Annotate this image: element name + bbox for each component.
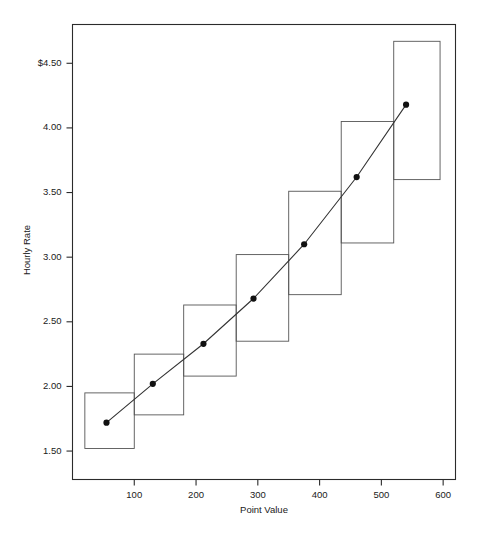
x-axis-tick-label: 400 — [312, 489, 328, 500]
x-axis-tick-label: 100 — [126, 489, 142, 500]
data-point-marker — [250, 295, 256, 301]
y-axis-title: Hourly Rate — [21, 225, 32, 275]
y-axis-tick-label: 3.50 — [43, 186, 62, 197]
data-point-marker — [150, 381, 156, 387]
step-box — [134, 354, 183, 415]
x-axis-group: 100200300400500600 — [126, 480, 451, 500]
plot-frame — [73, 25, 456, 480]
y-axis-tick-label: $4.50 — [38, 57, 62, 68]
series-marker-group — [103, 102, 409, 426]
hourly-rate-chart: $4.504.003.503.002.502.001.5010020030040… — [0, 0, 481, 545]
data-point-marker — [403, 102, 409, 108]
x-axis-tick-label: 300 — [250, 489, 266, 500]
y-axis-tick-label: 2.00 — [43, 380, 62, 391]
data-point-marker — [200, 341, 206, 347]
y-axis-tick-label: 4.00 — [43, 121, 62, 132]
y-axis-tick-label: 1.50 — [43, 445, 62, 456]
step-box — [184, 305, 237, 376]
step-box — [236, 255, 289, 342]
x-axis-tick-label: 600 — [435, 489, 451, 500]
chart-container: $4.504.003.503.002.502.001.5010020030040… — [0, 0, 481, 545]
y-axis-group: $4.504.003.503.002.502.001.50 — [38, 57, 73, 456]
step-box — [341, 121, 394, 243]
step-box-group — [85, 41, 440, 448]
step-box — [394, 41, 440, 179]
x-axis-tick-label: 200 — [188, 489, 204, 500]
series-line — [106, 105, 406, 423]
data-point-marker — [354, 174, 360, 180]
y-axis-tick-label: 2.50 — [43, 315, 62, 326]
x-axis-tick-label: 500 — [373, 489, 389, 500]
y-axis-tick-label: 3.00 — [43, 251, 62, 262]
x-axis-title: Point Value — [240, 504, 288, 515]
data-point-marker — [103, 420, 109, 426]
data-point-marker — [301, 241, 307, 247]
